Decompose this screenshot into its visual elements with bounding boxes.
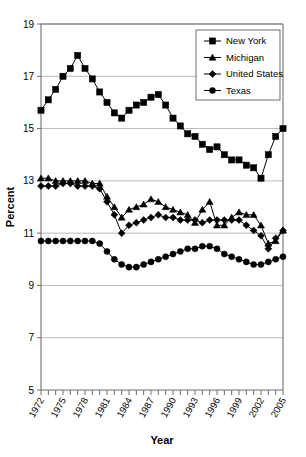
data-point	[177, 217, 184, 224]
data-point	[199, 243, 205, 249]
data-point	[82, 65, 88, 71]
data-point	[163, 254, 169, 260]
data-point	[147, 196, 154, 202]
data-point	[38, 107, 44, 113]
x-tick-label-1999: 1999	[224, 396, 244, 420]
data-point	[111, 204, 118, 210]
data-point	[45, 97, 51, 103]
data-point	[155, 198, 162, 204]
data-point	[89, 76, 95, 82]
y-axis-title: Percent	[4, 186, 16, 227]
data-point	[199, 141, 205, 147]
data-point	[38, 238, 44, 244]
data-point	[185, 246, 191, 252]
data-point	[221, 251, 227, 257]
data-point	[251, 165, 257, 171]
data-point	[236, 256, 242, 262]
data-point	[155, 211, 162, 218]
data-point	[125, 206, 132, 212]
data-point	[221, 152, 227, 158]
data-point	[169, 206, 176, 212]
data-point	[199, 219, 206, 226]
x-tick-label-1978: 1978	[70, 396, 90, 420]
data-point	[119, 261, 125, 267]
data-point	[60, 238, 66, 244]
data-point	[163, 102, 169, 108]
data-point	[177, 123, 183, 129]
data-point	[147, 214, 154, 221]
data-point	[60, 73, 66, 79]
data-point	[162, 204, 169, 210]
data-point	[119, 115, 125, 121]
data-point	[37, 183, 44, 190]
data-point	[265, 259, 271, 265]
data-point	[141, 99, 147, 105]
data-point	[141, 261, 147, 267]
data-point	[185, 131, 191, 137]
data-point	[148, 259, 154, 265]
data-point	[75, 238, 81, 244]
data-point	[214, 144, 220, 150]
data-point	[258, 261, 264, 267]
data-point	[45, 183, 52, 190]
y-tick-label-9: 9	[28, 280, 34, 291]
data-point	[228, 217, 235, 224]
data-point	[243, 222, 250, 229]
y-tick-label-11: 11	[24, 228, 35, 239]
data-point	[177, 209, 184, 215]
data-point	[111, 110, 117, 116]
data-point	[155, 91, 161, 97]
data-point	[97, 89, 103, 95]
data-point	[45, 238, 51, 244]
data-point	[169, 214, 176, 221]
data-point	[140, 217, 147, 224]
y-tick-label-17: 17	[23, 71, 35, 82]
y-tick-label-19: 19	[23, 19, 35, 30]
chart-container: 5791113151719197219751978198119841987199…	[0, 0, 306, 457]
data-point	[177, 248, 183, 254]
data-point	[140, 201, 147, 207]
legend-label-3: Texas	[226, 85, 251, 96]
data-point	[257, 222, 264, 228]
data-point	[170, 115, 176, 121]
data-point	[104, 99, 110, 105]
data-point	[126, 264, 132, 270]
x-tick-label-2002: 2002	[246, 396, 266, 420]
x-tick-label-1996: 1996	[202, 396, 222, 420]
x-axis-ticks: 1972197519781981198419871990199319961999…	[26, 390, 288, 419]
data-point	[192, 246, 198, 252]
legend-label-2: United States	[226, 68, 283, 79]
data-point	[243, 259, 249, 265]
data-point	[89, 238, 95, 244]
data-point	[162, 214, 169, 221]
data-point	[111, 256, 117, 262]
y-tick-label-15: 15	[23, 123, 35, 134]
x-tick-label-1984: 1984	[114, 396, 134, 420]
data-point	[214, 246, 220, 252]
y-tick-label-5: 5	[28, 385, 34, 396]
series-texas	[38, 238, 286, 270]
data-point	[229, 254, 235, 260]
legend: New YorkMichiganUnited StatesTexas	[196, 30, 283, 100]
data-point	[82, 238, 88, 244]
data-point	[155, 256, 161, 262]
data-point	[280, 125, 286, 131]
data-point	[207, 243, 213, 249]
y-tick-label-7: 7	[28, 332, 34, 343]
data-point	[229, 157, 235, 163]
legend-marker-square	[209, 38, 215, 44]
x-tick-label-1993: 1993	[180, 396, 200, 420]
x-tick-label-1981: 1981	[92, 396, 112, 420]
data-point	[236, 157, 242, 163]
data-point	[53, 86, 59, 92]
data-point	[148, 94, 154, 100]
data-point	[67, 238, 73, 244]
data-point	[265, 152, 271, 158]
data-point	[53, 238, 59, 244]
data-point	[280, 254, 286, 260]
legend-marker-circle	[209, 87, 215, 93]
data-point	[104, 248, 110, 254]
y-tick-label-13: 13	[23, 175, 35, 186]
data-point	[273, 133, 279, 139]
data-point	[75, 52, 81, 58]
